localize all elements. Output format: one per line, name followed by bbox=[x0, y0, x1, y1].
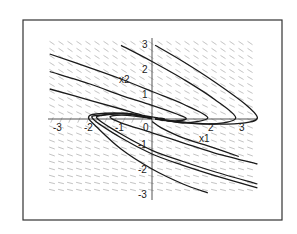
field-arrow bbox=[247, 112, 252, 115]
field-arrow bbox=[238, 91, 243, 94]
field-arrow bbox=[67, 126, 73, 128]
field-arrow bbox=[158, 55, 163, 58]
field-arrow bbox=[113, 41, 118, 44]
field-arrow bbox=[77, 41, 82, 44]
field-arrow bbox=[148, 182, 154, 183]
field-arrow bbox=[238, 84, 243, 87]
field-arrow bbox=[130, 147, 136, 149]
field-arrow bbox=[230, 48, 235, 51]
field-arrow bbox=[203, 41, 208, 44]
field-arrow bbox=[193, 77, 198, 80]
field-arrow bbox=[49, 91, 54, 94]
phase-portrait-chart: -3-2-1023 321-1-2-3 x2 x1 bbox=[0, 0, 297, 234]
field-arrow bbox=[86, 62, 91, 65]
field-arrow bbox=[112, 98, 117, 101]
field-arrow bbox=[59, 41, 64, 44]
x-tick-label: 0 bbox=[143, 122, 149, 133]
field-arrow bbox=[238, 112, 243, 115]
field-arrow bbox=[76, 69, 81, 72]
field-arrow bbox=[148, 126, 154, 128]
field-arrow bbox=[139, 77, 144, 80]
x-tick-label: 3 bbox=[239, 122, 245, 133]
field-arrow bbox=[76, 84, 81, 87]
field-arrow bbox=[130, 161, 136, 163]
field-arrow bbox=[193, 133, 199, 135]
field-arrow bbox=[85, 182, 91, 183]
field-arrow bbox=[130, 133, 136, 135]
field-arrow bbox=[49, 182, 55, 183]
field-arrow bbox=[166, 182, 172, 183]
field-arrow bbox=[193, 98, 198, 101]
field-arrow bbox=[94, 189, 100, 190]
field-arrow bbox=[112, 175, 118, 177]
field-arrow bbox=[194, 55, 199, 58]
field-arrow bbox=[49, 84, 54, 87]
field-arrow bbox=[49, 168, 55, 170]
y-axis-label: x2 bbox=[119, 74, 130, 85]
field-arrow bbox=[221, 41, 226, 44]
field-arrow bbox=[184, 182, 190, 183]
field-arrow bbox=[112, 168, 118, 170]
field-arrow bbox=[220, 112, 225, 115]
field-arrow bbox=[193, 154, 199, 156]
field-arrow bbox=[184, 69, 189, 72]
x-tick-label: -3 bbox=[53, 122, 62, 133]
field-arrow bbox=[247, 175, 253, 177]
field-arrow bbox=[247, 126, 253, 128]
field-arrow bbox=[229, 98, 234, 101]
field-arrow bbox=[185, 55, 190, 58]
field-arrow bbox=[212, 55, 217, 58]
field-arrow bbox=[76, 175, 82, 177]
field-arrow bbox=[58, 168, 64, 170]
field-arrow bbox=[193, 126, 199, 128]
field-arrow bbox=[85, 133, 91, 135]
field-arrow bbox=[220, 182, 226, 183]
field-arrow bbox=[211, 161, 217, 163]
field-arrow bbox=[94, 98, 99, 101]
field-arrow bbox=[202, 182, 208, 183]
field-arrow bbox=[76, 105, 81, 108]
field-arrow bbox=[50, 41, 55, 44]
field-arrow bbox=[193, 105, 198, 108]
field-arrow bbox=[230, 55, 235, 58]
field-arrow bbox=[229, 189, 235, 190]
field-arrow bbox=[230, 41, 235, 44]
field-arrow bbox=[220, 77, 225, 80]
field-arrow bbox=[94, 168, 100, 170]
field-arrow bbox=[139, 154, 145, 156]
field-arrow bbox=[167, 48, 172, 51]
field-arrow bbox=[76, 126, 82, 128]
field-arrow bbox=[229, 84, 234, 87]
field-arrow bbox=[221, 62, 226, 65]
field-arrow bbox=[103, 77, 108, 80]
field-arrow bbox=[104, 48, 109, 51]
field-arrow bbox=[121, 189, 127, 190]
field-arrow bbox=[67, 84, 72, 87]
field-arrow bbox=[203, 62, 208, 65]
field-arrow bbox=[220, 91, 225, 94]
field-arrow bbox=[184, 133, 190, 135]
field-arrow bbox=[157, 168, 163, 170]
field-arrow bbox=[76, 189, 82, 190]
field-arrow bbox=[157, 189, 163, 190]
field-arrow bbox=[175, 105, 180, 108]
field-arrow bbox=[211, 77, 216, 80]
field-arrow bbox=[58, 140, 64, 142]
field-arrow bbox=[139, 133, 145, 135]
field-arrow bbox=[76, 112, 81, 115]
field-arrow bbox=[94, 140, 100, 142]
field-arrow bbox=[193, 161, 199, 163]
field-arrow bbox=[202, 98, 207, 101]
field-arrow bbox=[184, 98, 189, 101]
field-arrow bbox=[94, 154, 100, 156]
field-arrow bbox=[85, 69, 90, 72]
field-arrow bbox=[202, 175, 208, 177]
field-arrow bbox=[194, 62, 199, 65]
field-arrow bbox=[103, 140, 109, 142]
field-arrow bbox=[211, 168, 217, 170]
field-arrow bbox=[184, 77, 189, 80]
field-arrow bbox=[149, 41, 154, 44]
field-arrow bbox=[94, 161, 100, 163]
field-arrow bbox=[103, 98, 108, 101]
field-arrow bbox=[202, 161, 208, 163]
